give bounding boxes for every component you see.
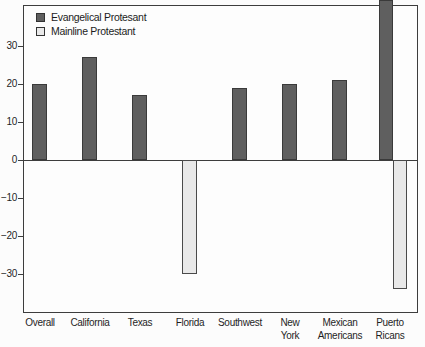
bar-chart-figure: 3020100−10−20−30 OverallCaliforniaTexasF… [0, 0, 425, 347]
bar-california-evangelical-protesant [82, 57, 97, 160]
mainline-swatch-icon [36, 27, 45, 36]
y-tick--30 [18, 274, 23, 275]
legend-item-evangelical: Evangelical Protesant [36, 10, 146, 24]
bar-new-york-evangelical-protesant [282, 84, 297, 160]
y-tick-label--30: −30 [0, 268, 17, 280]
y-tick-label-30: 30 [0, 40, 17, 52]
bar-overall-evangelical-protesant [32, 84, 47, 160]
evangelical-swatch-icon [36, 13, 45, 22]
y-tick-label-0: 0 [0, 154, 17, 166]
zero-axis-line [23, 160, 418, 161]
y-tick-30 [18, 46, 23, 47]
bar-florida-mainline-protestant [182, 160, 197, 274]
x-label-puerto-ricans: PuertoRicans [358, 317, 422, 342]
y-tick-10 [18, 122, 23, 123]
legend-label-mainline: Mainline Protestant [51, 25, 135, 37]
legend-label-evangelical: Evangelical Protesant [51, 11, 146, 23]
y-tick-20 [18, 84, 23, 85]
y-tick-label--10: −10 [0, 192, 17, 204]
y-tick-label-10: 10 [0, 116, 17, 128]
bar-mexican-americans-evangelical-protesant [332, 80, 347, 160]
y-tick--10 [18, 198, 23, 199]
bar-puerto-ricans-evangelical-protesant [379, 0, 393, 160]
bar-southwest-evangelical-protesant [232, 88, 247, 160]
bar-texas-evangelical-protesant [132, 95, 147, 160]
y-tick-label--20: −20 [0, 230, 17, 242]
bar-puerto-ricans-mainline-protestant [393, 160, 407, 289]
y-tick-label-20: 20 [0, 78, 17, 90]
legend: Evangelical Protesant Mainline Protestan… [36, 10, 146, 38]
legend-item-mainline: Mainline Protestant [36, 24, 146, 38]
y-tick--20 [18, 236, 23, 237]
